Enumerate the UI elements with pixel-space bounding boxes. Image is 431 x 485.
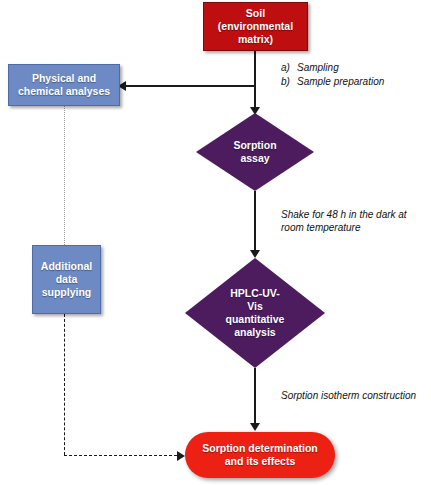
connector-physical-chemical-to-additional-data [64, 106, 65, 245]
flowchart-canvas: Soil (environmental matrix) Physical and… [0, 0, 431, 485]
connector-spine-to-physical-chemical [125, 85, 255, 87]
annotation-sampling-marker-a: a) [281, 61, 297, 74]
arrowhead-additional-data-to-result [177, 451, 185, 461]
annotation-sampling-steps: a) Sampling b) Sample preparation [281, 61, 426, 88]
diamond-shape-hplc [185, 258, 325, 368]
node-soil[interactable]: Soil (environmental matrix) [203, 2, 308, 51]
diamond-shape-sorption-assay [196, 113, 314, 191]
annotation-sampling-text-b: Sample preparation [297, 75, 426, 88]
node-sorption-determination[interactable]: Sorption determination and its effects [185, 432, 335, 478]
annotation-sorption-isotherm: Sorption isotherm construction [281, 389, 431, 402]
connector-hplc-to-result [254, 368, 256, 426]
node-sorption-determination-label: Sorption determination and its effects [202, 442, 318, 468]
node-additional-data-supplying-label: Additional data supplying [41, 260, 92, 299]
connector-sorption-assay-to-hplc [254, 191, 256, 253]
node-soil-label: Soil (environmental matrix) [218, 7, 293, 46]
node-hplc-uv-vis-analysis[interactable]: HPLC-UV- Vis quantitative analysis [185, 258, 325, 368]
annotation-shake-conditions: Shake for 48 h in the dark at room tempe… [281, 208, 431, 234]
connector-soil-to-sorption-assay [254, 51, 256, 109]
annotation-sampling-marker-b: b) [281, 75, 297, 88]
arrowhead-sorption-assay-to-hplc [250, 250, 260, 258]
connector-additional-data-to-result [64, 455, 177, 456]
annotation-sampling-text-a: Sampling [297, 61, 426, 74]
arrowhead-hplc-to-result [250, 423, 260, 431]
node-physical-chemical-analyses-label: Physical and chemical analyses [18, 72, 110, 98]
connector-additional-data-down [64, 314, 65, 455]
node-additional-data-supplying[interactable]: Additional data supplying [32, 245, 101, 314]
node-physical-chemical-analyses[interactable]: Physical and chemical analyses [8, 64, 120, 106]
node-sorption-assay[interactable]: Sorption assay [196, 113, 314, 191]
